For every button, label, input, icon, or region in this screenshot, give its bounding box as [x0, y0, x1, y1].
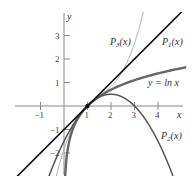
x-tick-label: 4	[155, 110, 160, 120]
y-tick-label: 2	[55, 54, 60, 64]
x-ticks: −11234	[35, 102, 161, 120]
y-ticks: −2−1123	[50, 31, 70, 159]
p1-label: P1(x)	[161, 36, 183, 49]
x-tick-label: −1	[35, 110, 45, 120]
lnx-label: y = ln x	[147, 77, 179, 88]
x-tick-label: 3	[132, 110, 137, 120]
y-axis-label: y	[66, 11, 72, 22]
p3-label: P3(x)	[109, 36, 131, 49]
p2-label: P2(x)	[160, 130, 182, 143]
x-axis-label: x	[176, 109, 182, 120]
x-tick-label: 2	[108, 110, 113, 120]
p1-line	[12, 7, 186, 181]
y-tick-label: −1	[50, 125, 60, 135]
x-tick-label: 1	[85, 110, 90, 120]
y-tick-label: 1	[55, 78, 60, 88]
y-tick-label: 3	[55, 31, 60, 41]
tangent-point	[85, 104, 89, 108]
taylor-polynomial-chart: −11234 −2−1123 x y P3(x) P1(x) y = ln x …	[0, 0, 195, 187]
